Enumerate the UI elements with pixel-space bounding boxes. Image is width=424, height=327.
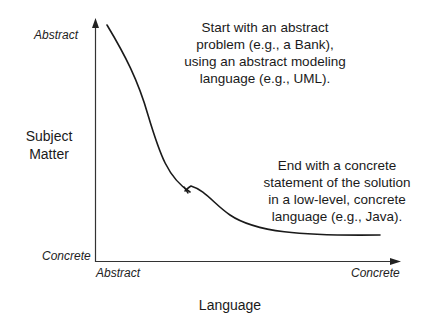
y-axis bbox=[92, 18, 99, 262]
x-axis bbox=[95, 258, 401, 265]
end-annotation: End with a concrete statement of the sol… bbox=[250, 157, 424, 225]
end-annotation-line: language (e.g., Java). bbox=[250, 208, 424, 225]
x-axis-left-label: Abstract bbox=[96, 266, 140, 280]
x-axis-arrowhead-icon bbox=[390, 258, 401, 265]
y-axis-title-line-2: Matter bbox=[18, 145, 80, 163]
x-axis-title: Language bbox=[170, 296, 290, 314]
y-axis-title-line-1: Subject bbox=[18, 127, 80, 145]
y-axis-top-label: Abstract bbox=[34, 28, 78, 42]
start-annotation-line: problem (e.g., a Bank), bbox=[160, 36, 370, 53]
end-annotation-line: statement of the solution bbox=[250, 174, 424, 191]
start-annotation-line: language (e.g., UML). bbox=[160, 70, 370, 87]
end-annotation-line: End with a concrete bbox=[250, 157, 424, 174]
end-annotation-line: in a low-level, concrete bbox=[250, 191, 424, 208]
start-annotation-line: using an abstract modeling bbox=[160, 53, 370, 70]
start-annotation: Start with an abstract problem (e.g., a … bbox=[160, 19, 370, 87]
y-axis-arrowhead-icon bbox=[92, 18, 99, 28]
y-axis-title: Subject Matter bbox=[18, 127, 80, 163]
y-axis-bottom-label: Concrete bbox=[42, 249, 91, 263]
start-annotation-line: Start with an abstract bbox=[160, 19, 370, 36]
x-axis-right-label: Concrete bbox=[351, 266, 400, 280]
